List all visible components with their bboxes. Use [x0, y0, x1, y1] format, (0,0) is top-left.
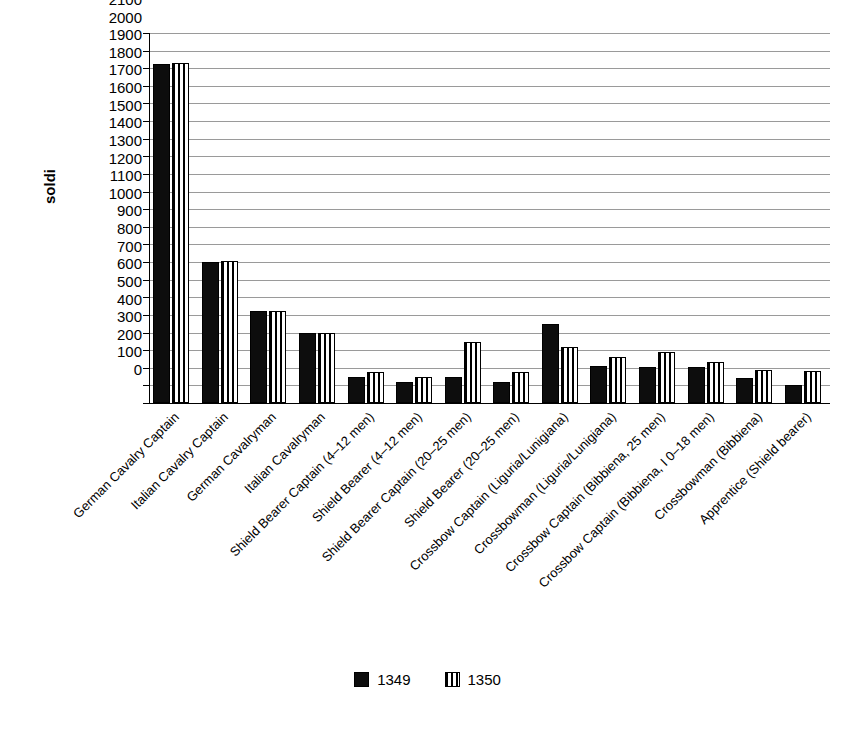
- y-axis-tick-label: 800: [98, 221, 142, 236]
- y-axis-tick-label: 1500: [98, 98, 142, 113]
- bar-group: [639, 33, 675, 403]
- y-axis-tick-label: 1600: [98, 80, 142, 95]
- y-axis-tick: [143, 385, 150, 386]
- y-axis-tick: [143, 280, 150, 281]
- bar-1350: [464, 342, 481, 403]
- bar-group: [396, 33, 432, 403]
- bar-1349: [493, 382, 510, 403]
- bar-1349: [688, 367, 705, 403]
- x-axis-tick-label: German Cavalry Captain: [0, 410, 182, 703]
- bar-1349: [348, 377, 365, 403]
- bar-1350: [318, 333, 335, 403]
- x-axis-line: [149, 403, 830, 404]
- y-axis-tick-label: 1400: [98, 115, 142, 130]
- y-axis-tick-label: 2000: [98, 10, 142, 25]
- y-axis-tick-label: 500: [98, 274, 142, 289]
- x-axis-tick-label: German Cavalryman: [0, 410, 279, 703]
- bar-1350: [658, 352, 675, 403]
- bar-1349: [250, 311, 267, 403]
- legend-label: 1350: [468, 672, 501, 687]
- y-axis-tick: [143, 139, 150, 140]
- bar-group: [299, 33, 335, 403]
- bar-group: [348, 33, 384, 403]
- y-axis-tick-label: 400: [98, 292, 142, 307]
- legend-label: 1349: [377, 672, 410, 687]
- x-axis-tick-label: Shield Bearer Captain (20–25 men): [181, 410, 474, 703]
- x-axis-tick-label: Apprentice (Shield bearer): [521, 410, 814, 703]
- y-axis-tick-labels: 0100200300400500600700800900100011001200…: [96, 0, 142, 370]
- x-axis-tick-label: Shield Bearer (20–25 men): [229, 410, 522, 703]
- legend-item: 1350: [445, 672, 501, 687]
- y-axis-tick: [143, 33, 150, 34]
- y-axis-tick: [143, 350, 150, 351]
- bar-group: [153, 33, 189, 403]
- y-axis-tick: [143, 174, 150, 175]
- y-axis-tick-label: 1300: [98, 133, 142, 148]
- y-axis-tick-label: 100: [98, 344, 142, 359]
- bar-group: [688, 33, 724, 403]
- y-axis-tick-label: 1900: [98, 27, 142, 42]
- y-axis-tick-label: 1200: [98, 151, 142, 166]
- bar-1350: [512, 372, 529, 403]
- y-axis-tick-label: 900: [98, 203, 142, 218]
- legend-swatch-1349: [354, 672, 369, 687]
- bar-1350: [561, 347, 578, 403]
- x-axis-tick-label: Crossbow Captain (Bibbiena, 25 men): [375, 410, 668, 703]
- y-axis-tick: [143, 68, 150, 69]
- y-axis-tick: [143, 333, 150, 334]
- y-axis-tick-label: 1700: [98, 62, 142, 77]
- bar-1349: [639, 367, 656, 403]
- y-axis-tick: [143, 86, 150, 87]
- y-axis-tick: [143, 209, 150, 210]
- bar-group: [250, 33, 286, 403]
- bar-group: [202, 33, 238, 403]
- y-axis-tick: [143, 262, 150, 263]
- bar-1350: [367, 372, 384, 403]
- chart-legend: 13491350: [0, 672, 855, 687]
- x-axis-tick-label: Shield Bearer (4–12 men): [132, 410, 425, 703]
- bar-1349: [153, 64, 170, 403]
- x-axis-tick-label: Crossbowman (Liguria/Lunigiana): [327, 410, 620, 703]
- bar-1349: [542, 324, 559, 403]
- bar-1349: [202, 262, 219, 403]
- bar-1350: [804, 371, 821, 403]
- y-axis-tick: [143, 244, 150, 245]
- bar-1350: [269, 311, 286, 404]
- y-axis-tick-label: 2100: [98, 0, 142, 7]
- bar-chart: soldi 0100200300400500600700800900100011…: [0, 0, 855, 729]
- bar-1349: [299, 333, 316, 403]
- y-axis-tick-label: 1800: [98, 45, 142, 60]
- x-axis-tick-label: Crossbowman (Bibbiena): [472, 410, 765, 703]
- y-axis-tick-label: 600: [98, 256, 142, 271]
- bar-1349: [396, 382, 413, 403]
- bar-1350: [221, 261, 238, 403]
- y-axis-tick: [143, 227, 150, 228]
- bar-1350: [609, 357, 626, 403]
- bar-1349: [445, 377, 462, 403]
- bar-group: [785, 33, 821, 403]
- x-axis-tick-label: Italian Cavalryman: [35, 410, 328, 703]
- bar-group: [736, 33, 772, 403]
- legend-item: 1349: [354, 672, 410, 687]
- x-axis-tick-label: Shield Bearer Captain (4–12 men): [84, 410, 377, 703]
- bar-1350: [755, 370, 772, 403]
- bar-1349: [785, 385, 802, 404]
- plot-area: [150, 33, 830, 403]
- y-axis-tick-label: 1100: [98, 168, 142, 183]
- y-axis-tick-label: 300: [98, 309, 142, 324]
- legend-swatch-1350: [445, 672, 460, 687]
- y-axis-tick: [143, 51, 150, 52]
- y-axis-tick: [143, 297, 150, 298]
- y-axis-tick: [143, 103, 150, 104]
- bar-group: [542, 33, 578, 403]
- y-axis-tick: [143, 192, 150, 193]
- bar-1350: [172, 63, 189, 403]
- y-axis-tick: [143, 315, 150, 316]
- bar-group: [590, 33, 626, 403]
- x-axis-tick-label: Crossbow Captain (Liguria/Lunigiana): [278, 410, 571, 703]
- y-axis-tick-label: 200: [98, 327, 142, 342]
- y-axis-tick: [143, 156, 150, 157]
- x-axis-tick-label: Italian Cavalry Captain: [0, 410, 231, 703]
- bar-1350: [707, 362, 724, 403]
- y-axis-tick-label: 1000: [98, 186, 142, 201]
